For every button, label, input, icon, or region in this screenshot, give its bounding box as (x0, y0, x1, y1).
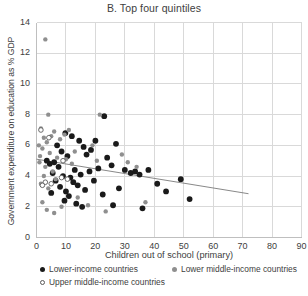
legend-label: Lower-income countries (49, 264, 138, 274)
chart-figure: B. Top four quintiles Government expendi… (0, 0, 308, 296)
data-points (37, 37, 193, 215)
legend-item-lower-income: Lower-income countries (40, 264, 138, 274)
y-tick-label: 12 (8, 48, 30, 57)
y-tick-label: 10 (8, 79, 30, 88)
y-tick-label: 8 (8, 110, 30, 119)
y-tick-label: 0 (8, 233, 30, 242)
legend-marker-filled-gray-icon (172, 267, 177, 272)
legend-marker-open-circle-icon (40, 280, 45, 285)
legend-label: Lower middle-income countries (181, 264, 297, 274)
y-tick-label: 2 (8, 202, 30, 211)
legend-marker-filled-black-icon (40, 267, 45, 272)
y-tick-label: 6 (8, 140, 30, 149)
y-tick-label: 14 (8, 18, 30, 27)
x-axis-label: Children out of school (primary) (36, 250, 302, 260)
legend-label: Upper middle-income countries (49, 277, 165, 287)
y-tick-label: 4 (8, 171, 30, 180)
legend-item-upper-middle-income: Upper middle-income countries (40, 277, 165, 287)
legend-item-lower-middle-income: Lower middle-income countries (172, 264, 297, 274)
